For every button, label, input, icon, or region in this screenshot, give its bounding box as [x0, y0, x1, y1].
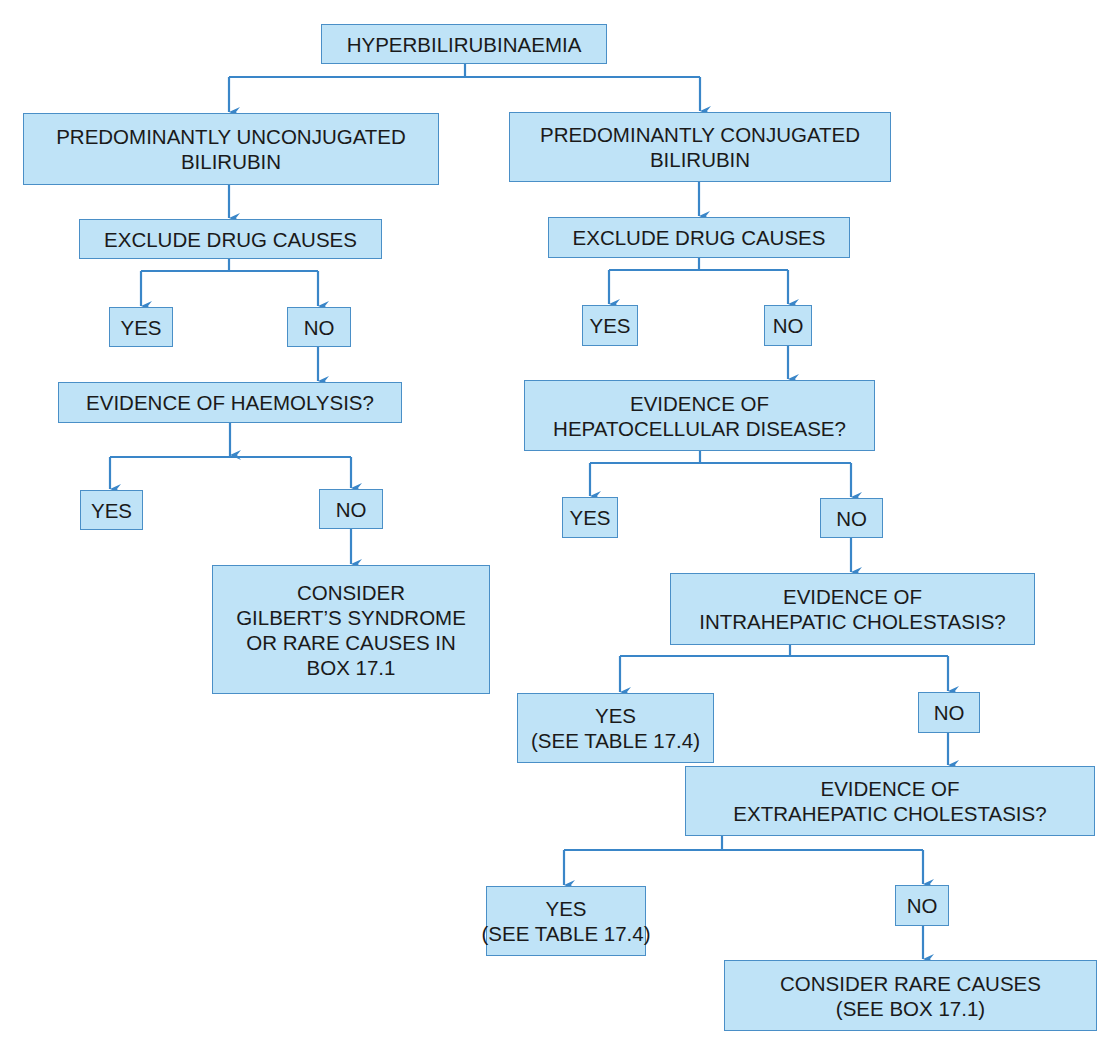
node-label: (SEE BOX 17.1) — [836, 996, 985, 1021]
node-label: GILBERT’S SYNDROME — [236, 605, 466, 630]
node-evidence-of-intrahepatic-cholestasis: EVIDENCE OF INTRAHEPATIC CHOLESTASIS? — [670, 573, 1035, 645]
node-label: HYPERBILIRUBINAEMIA — [347, 32, 582, 57]
node-label: OR RARE CAUSES IN — [246, 630, 456, 655]
node-label: INTRAHEPATIC CHOLESTASIS? — [699, 609, 1005, 634]
node-label: EVIDENCE OF — [630, 391, 769, 416]
node-label: YES — [545, 896, 586, 921]
node-label: (SEE TABLE 17.4) — [482, 921, 651, 946]
node-label: PREDOMINANTLY CONJUGATED — [540, 122, 860, 147]
node-extrahepatic-yes: YES (SEE TABLE 17.4) — [486, 886, 646, 956]
node-label: PREDOMINANTLY UNCONJUGATED — [56, 124, 406, 149]
node-label: CONSIDER — [297, 580, 405, 605]
node-consider-rare-causes: CONSIDER RARE CAUSES (SEE BOX 17.1) — [724, 960, 1097, 1031]
node-label: NO — [934, 700, 965, 725]
node-label: BILIRUBIN — [650, 147, 750, 172]
node-hepatocellular-no: NO — [820, 498, 883, 538]
node-label: EVIDENCE OF — [821, 776, 960, 801]
node-left-drug-yes: YES — [109, 307, 173, 347]
node-predominantly-conjugated: PREDOMINANTLY CONJUGATED BILIRUBIN — [509, 112, 891, 182]
node-label: EXTRAHEPATIC CHOLESTASIS? — [733, 801, 1046, 826]
node-label: NO — [907, 893, 938, 918]
node-label: HEPATOCELLULAR DISEASE? — [553, 416, 846, 441]
node-label: NO — [836, 506, 867, 531]
node-haemolysis-no: NO — [319, 489, 383, 529]
node-label: EXCLUDE DRUG CAUSES — [573, 225, 826, 250]
node-label: EVIDENCE OF HAEMOLYSIS? — [86, 390, 374, 415]
node-hepatocellular-yes: YES — [562, 497, 618, 538]
node-label: BOX 17.1 — [307, 655, 396, 680]
node-label: EVIDENCE OF — [783, 584, 922, 609]
node-hyperbilirubinaemia: HYPERBILIRUBINAEMIA — [321, 24, 607, 64]
node-label: NO — [304, 315, 335, 340]
node-label: (SEE TABLE 17.4) — [531, 728, 700, 753]
node-label: NO — [336, 497, 367, 522]
node-intrahepatic-yes: YES (SEE TABLE 17.4) — [517, 693, 714, 763]
node-label: YES — [589, 313, 630, 338]
node-intrahepatic-no: NO — [918, 692, 980, 733]
node-evidence-of-hepatocellular-disease: EVIDENCE OF HEPATOCELLULAR DISEASE? — [524, 380, 875, 451]
node-left-drug-no: NO — [287, 307, 351, 347]
node-label: YES — [595, 703, 636, 728]
node-haemolysis-yes: YES — [80, 490, 143, 530]
node-label: CONSIDER RARE CAUSES — [780, 971, 1041, 996]
node-right-exclude-drug-causes: EXCLUDE DRUG CAUSES — [548, 217, 850, 258]
flowchart-canvas: HYPERBILIRUBINAEMIA PREDOMINANTLY UNCONJ… — [0, 0, 1120, 1058]
node-evidence-of-extrahepatic-cholestasis: EVIDENCE OF EXTRAHEPATIC CHOLESTASIS? — [685, 766, 1095, 836]
node-label: YES — [569, 505, 610, 530]
node-right-drug-no: NO — [764, 305, 812, 346]
node-label: NO — [773, 313, 804, 338]
node-label: YES — [91, 498, 132, 523]
node-extrahepatic-no: NO — [895, 885, 949, 926]
node-predominantly-unconjugated: PREDOMINANTLY UNCONJUGATED BILIRUBIN — [23, 113, 439, 185]
node-left-exclude-drug-causes: EXCLUDE DRUG CAUSES — [79, 219, 382, 259]
node-label: EXCLUDE DRUG CAUSES — [104, 227, 357, 252]
node-consider-gilberts: CONSIDER GILBERT’S SYNDROME OR RARE CAUS… — [212, 565, 490, 694]
node-label: YES — [120, 315, 161, 340]
node-evidence-of-haemolysis: EVIDENCE OF HAEMOLYSIS? — [58, 382, 402, 423]
node-label: BILIRUBIN — [181, 149, 281, 174]
node-right-drug-yes: YES — [582, 305, 638, 346]
